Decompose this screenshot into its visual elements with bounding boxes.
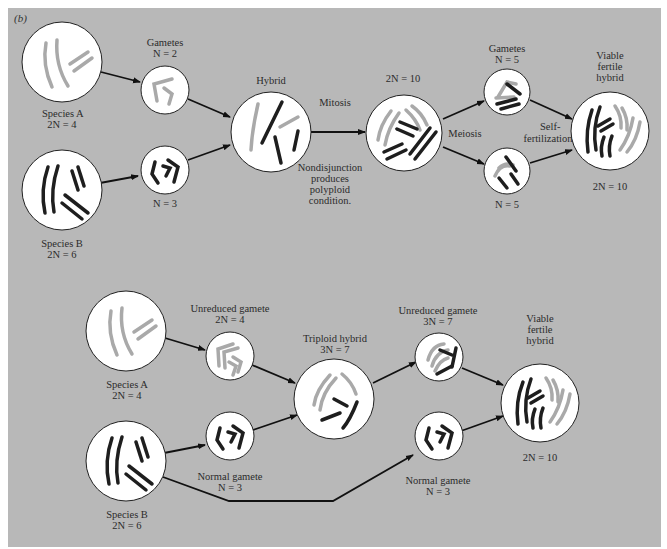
cell-species-a-bottom bbox=[86, 291, 166, 371]
arrow-meiosis-bottom bbox=[443, 147, 484, 164]
unreduced-gamete-triploid-ploidy: 3N = 7 bbox=[398, 316, 478, 328]
viable-top-ploidy: 2N = 10 bbox=[585, 181, 635, 193]
arrow-species-b-to-gamete bbox=[100, 176, 138, 183]
arrow-normal2-to-viable bbox=[461, 416, 503, 431]
gametes-b-ploidy: N = 3 bbox=[140, 198, 190, 210]
unreduced-gamete-a-ploidy: 2N = 4 bbox=[190, 314, 270, 326]
cell-species-b-top bbox=[22, 150, 102, 230]
arrow-unreduced-to-triploid bbox=[252, 365, 295, 383]
arrow-gamete-b-to-hybrid bbox=[188, 145, 230, 160]
gametes-bottom-ploidy: N = 5 bbox=[482, 199, 532, 211]
arrow-species-b-to-normal bbox=[164, 445, 205, 453]
hybrid-title: Hybrid bbox=[246, 75, 296, 87]
arrow-species-a-to-unreduced bbox=[165, 338, 205, 350]
species-b-bottom-ploidy: 2N = 6 bbox=[102, 520, 152, 532]
panel-label: (b) bbox=[14, 12, 27, 24]
arrow-species-a-to-gamete bbox=[101, 72, 140, 82]
species-a-top-ploidy: 2N = 4 bbox=[42, 119, 82, 131]
species-a-bottom-ploidy: 2N = 4 bbox=[102, 390, 152, 402]
viable-bottom-ploidy: 2N = 10 bbox=[515, 452, 565, 464]
meiosis-label: Meiosis bbox=[445, 128, 485, 140]
triploid-hybrid-ploidy: 3N = 7 bbox=[295, 344, 375, 356]
self-fertilization-line-2: fertilization bbox=[518, 133, 578, 145]
doubled-ploidy: 2N = 10 bbox=[378, 73, 428, 85]
arrow-normal-to-triploid bbox=[253, 415, 297, 430]
mitosis-label: Mitosis bbox=[310, 97, 360, 109]
viable-bottom-title-3: hybrid bbox=[520, 335, 560, 347]
cell-species-b-bottom bbox=[86, 421, 166, 501]
cell-normal-gamete-b2 bbox=[415, 412, 463, 460]
arrow-self-fert-top bbox=[530, 100, 572, 119]
viable-top-title-3: hybrid bbox=[590, 72, 630, 84]
cell-unreduced-gamete-a bbox=[206, 332, 254, 380]
arrow-meiosis-top bbox=[443, 101, 484, 119]
speciation-diagram bbox=[0, 0, 667, 549]
normal-gamete-b-ploidy: N = 3 bbox=[190, 482, 270, 494]
normal-gamete-b2-ploidy: N = 3 bbox=[398, 486, 478, 498]
cell-normal-gamete-b bbox=[206, 412, 254, 460]
nondisjunction-line-4: condition. bbox=[295, 195, 365, 207]
arrow-unreduced-to-viable bbox=[462, 368, 503, 385]
gametes-top-ploidy: N = 5 bbox=[482, 54, 532, 66]
arrow-gamete-a-to-hybrid bbox=[188, 99, 230, 117]
self-fertilization-line-1: Self- bbox=[540, 121, 580, 133]
gametes-a-ploidy: N = 2 bbox=[140, 48, 190, 60]
arrow-triploid-to-unreduced bbox=[373, 362, 416, 383]
cell-species-a-top bbox=[22, 22, 102, 102]
species-b-top-ploidy: 2N = 6 bbox=[40, 249, 84, 261]
cell-gamete-b-top bbox=[141, 146, 189, 194]
arrow-self-fert-bottom bbox=[530, 150, 572, 163]
